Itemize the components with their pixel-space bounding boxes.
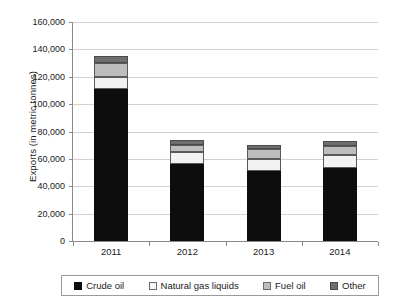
bar-segment-2014-fuel[interactable] xyxy=(323,146,357,155)
bar-segment-2013-other[interactable] xyxy=(247,145,281,149)
bar-segment-2014-ngl[interactable] xyxy=(323,155,357,168)
bar-segment-2013-fuel[interactable] xyxy=(247,149,281,159)
bar-segment-2011-fuel[interactable] xyxy=(94,63,128,77)
legend-item-fuel-oil[interactable]: Fuel oil xyxy=(263,280,306,291)
y-tick-label: 160,000 xyxy=(3,18,65,27)
legend-swatch-other-icon xyxy=(330,282,338,290)
plot-area: 160,000140,000120,000100,00080,00060,000… xyxy=(73,22,378,241)
y-tick-mark xyxy=(69,49,73,50)
bar-segment-2012-crude[interactable] xyxy=(170,164,204,241)
y-tick-label: 60,000 xyxy=(3,155,65,164)
x-tick-mark xyxy=(378,242,379,246)
bar-segment-2014-other[interactable] xyxy=(323,141,357,146)
legend-item-natural-gas-liquids[interactable]: Natural gas liquids xyxy=(149,280,239,291)
bar-group-2013[interactable] xyxy=(247,22,281,241)
y-tick-label: 100,000 xyxy=(3,100,65,109)
x-tick-mark xyxy=(73,242,74,246)
bar-group-2014[interactable] xyxy=(323,22,357,241)
bar-segment-2011-ngl[interactable] xyxy=(94,77,128,89)
bar-segment-2011-other[interactable] xyxy=(94,56,128,63)
legend-label-crude-oil: Crude oil xyxy=(86,280,124,291)
y-tick-mark xyxy=(69,77,73,78)
y-tick-mark xyxy=(69,186,73,187)
bar-group-2012[interactable] xyxy=(170,22,204,241)
x-tick-mark xyxy=(302,242,303,246)
y-tick-mark xyxy=(69,132,73,133)
x-tick-mark xyxy=(149,242,150,246)
bar-segment-2013-crude[interactable] xyxy=(247,171,281,241)
y-tick-label: 40,000 xyxy=(3,182,65,191)
y-tick-mark xyxy=(69,22,73,23)
bar-segment-2013-ngl[interactable] xyxy=(247,159,281,171)
legend-label-other: Other xyxy=(342,280,366,291)
bar-segment-2012-other[interactable] xyxy=(170,140,204,145)
y-tick-mark xyxy=(69,159,73,160)
legend-item-crude-oil[interactable]: Crude oil xyxy=(74,280,124,291)
y-tick-label: 120,000 xyxy=(3,73,65,82)
y-tick-label: 20,000 xyxy=(3,210,65,219)
legend-swatch-natural-gas-liquids-icon xyxy=(149,282,157,290)
x-tick-label-2013: 2013 xyxy=(234,246,294,257)
bar-segment-2012-ngl[interactable] xyxy=(170,152,204,164)
legend-swatch-crude-oil-icon xyxy=(74,282,82,290)
legend-label-fuel-oil: Fuel oil xyxy=(275,280,306,291)
bar-segment-2012-fuel[interactable] xyxy=(170,145,204,153)
y-tick-mark xyxy=(69,214,73,215)
x-tick-label-2011: 2011 xyxy=(81,246,141,257)
x-tick-label-2014: 2014 xyxy=(310,246,370,257)
y-tick-label: 0 xyxy=(3,237,65,246)
bar-group-2011[interactable] xyxy=(94,22,128,241)
y-axis-title: Exports (in metric tonnes) xyxy=(27,32,38,222)
stacked-bar-chart: Exports (in metric tonnes) 160,000140,00… xyxy=(0,0,396,308)
x-tick-mark xyxy=(226,242,227,246)
bar-segment-2014-crude[interactable] xyxy=(323,168,357,241)
y-tick-label: 80,000 xyxy=(3,128,65,137)
legend-swatch-fuel-oil-icon xyxy=(263,282,271,290)
legend-item-other[interactable]: Other xyxy=(330,280,366,291)
y-tick-mark xyxy=(69,104,73,105)
chart-legend: Crude oil Natural gas liquids Fuel oil O… xyxy=(61,275,379,296)
legend-label-natural-gas-liquids: Natural gas liquids xyxy=(161,280,239,291)
bar-segment-2011-crude[interactable] xyxy=(94,89,128,241)
x-tick-label-2012: 2012 xyxy=(157,246,217,257)
y-tick-label: 140,000 xyxy=(3,45,65,54)
